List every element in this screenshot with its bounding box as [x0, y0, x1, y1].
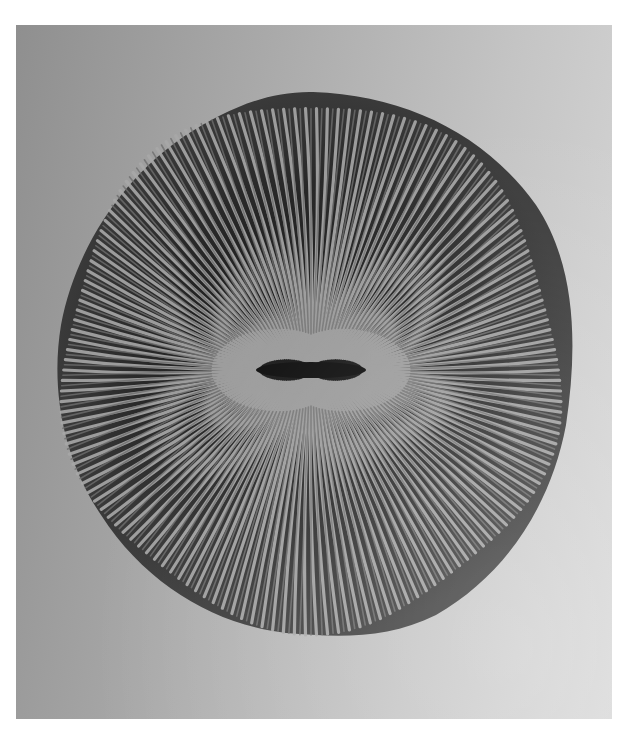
photograph	[16, 25, 612, 719]
mushroom-coral	[16, 25, 612, 719]
